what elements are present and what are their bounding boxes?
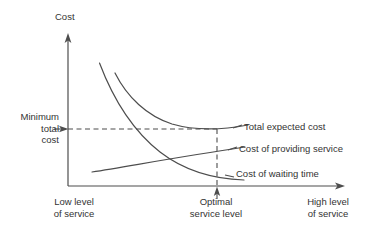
leader-cost-of-waiting-time	[225, 175, 234, 177]
x-axis	[68, 183, 345, 190]
curve-total-expected-cost	[115, 73, 248, 129]
queueing-cost-tradeoff-diagram: Cost Minimum total cost Low level of ser…	[0, 0, 379, 238]
minimum-total-cost-label: Minimum total cost	[4, 111, 59, 146]
x-axis-label-optimal: Optimal service level	[176, 196, 256, 219]
x-axis-label-low-level: Low level of service	[43, 196, 105, 219]
series-label-cost-of-providing-service: Cost of providing service	[239, 143, 343, 155]
x-axis-label-high-level: High level of service	[297, 196, 359, 219]
series-label-total-expected-cost: Total expected cost	[244, 121, 325, 133]
y-axis-title: Cost	[55, 11, 75, 23]
y-axis	[65, 33, 72, 186]
curve-cost-of-waiting-time	[100, 63, 245, 180]
line-cost-of-providing-service	[92, 147, 245, 172]
series-label-cost-of-waiting-time: Cost of waiting time	[236, 168, 319, 180]
